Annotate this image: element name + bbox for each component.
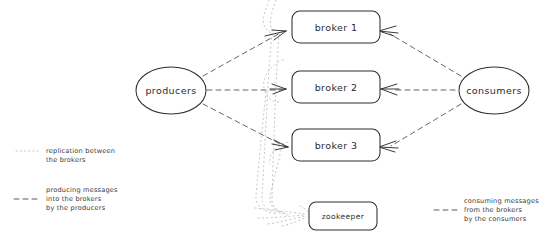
arrowhead-broker2-right xyxy=(381,84,399,95)
legend-item-replication: replication between the brokers xyxy=(16,147,115,164)
legend-item-consuming: consuming messages from the brokers by t… xyxy=(434,197,539,223)
node-broker-1[interactable]: broker 1 xyxy=(292,11,380,43)
edge-producers-to-broker3 xyxy=(203,104,284,146)
broker-2-label: broker 2 xyxy=(315,82,358,93)
legend-right: consuming messages from the brokers by t… xyxy=(434,197,539,223)
diagram-canvas: producers consumers broker 1 broker 2 br… xyxy=(0,0,557,244)
replication-edge-top-2 xyxy=(270,0,276,33)
replication-edge-broker3-down xyxy=(270,150,287,215)
node-producers[interactable]: producers xyxy=(136,67,206,114)
arrowhead-broker2-left xyxy=(270,84,286,94)
legend-replication-line1: replication between xyxy=(46,147,115,155)
consuming-edges-group xyxy=(390,34,461,146)
legend-producing-line3: by the producers xyxy=(46,204,106,212)
legend-consuming-line1: consuming messages xyxy=(464,197,539,205)
node-broker-3[interactable]: broker 3 xyxy=(292,129,380,161)
edge-consumers-to-broker1 xyxy=(390,34,461,76)
legend-consuming-line2: from the brokers xyxy=(464,206,522,214)
arrowhead-broker3-left xyxy=(272,140,288,150)
arrowhead-broker1-left xyxy=(265,30,286,40)
broker-3-label: broker 3 xyxy=(315,140,358,151)
consumers-label: consumers xyxy=(466,85,522,96)
replication-edge-broker2-curve xyxy=(264,60,283,102)
node-consumers[interactable]: consumers xyxy=(459,67,529,114)
legend-producing-line1: producing messages xyxy=(46,186,118,194)
zookeeper-label: zookeeper xyxy=(322,212,365,221)
node-broker-2[interactable]: broker 2 xyxy=(292,71,380,103)
legend-item-producing: producing messages into the brokers by t… xyxy=(14,186,118,212)
arrowhead-broker3-right xyxy=(379,141,398,152)
edge-consumers-to-broker3 xyxy=(391,104,461,146)
broker-1-label: broker 1 xyxy=(315,22,358,33)
producing-arrowheads-group xyxy=(265,30,288,150)
legend-left: replication between the brokers producin… xyxy=(14,147,118,212)
legend-consuming-line3: by the consumers xyxy=(464,215,527,223)
node-zookeeper[interactable]: zookeeper xyxy=(309,202,377,230)
replication-edge-top-1 xyxy=(263,0,271,33)
legend-producing-line2: into the brokers xyxy=(46,195,102,203)
producers-label: producers xyxy=(145,85,196,96)
arrowhead-broker1-right xyxy=(379,26,398,36)
edge-producers-to-broker1 xyxy=(203,32,282,76)
legend-replication-line2: the brokers xyxy=(46,156,86,164)
replication-edge-zookeeper-fan-2 xyxy=(258,215,305,218)
replication-edge-broker1-down-2 xyxy=(272,34,288,214)
consuming-arrowheads-group xyxy=(379,26,399,152)
